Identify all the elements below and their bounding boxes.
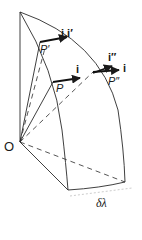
point-p-label: P	[56, 83, 63, 94]
dashed-radius-upper	[20, 48, 45, 142]
delta-lambda-label: δλ	[96, 197, 107, 209]
radius-to-p	[20, 82, 53, 142]
origin-label: O	[4, 140, 14, 153]
edge-origin-to-bottom	[20, 142, 68, 190]
vector-i-i-prime-label: i,i′	[61, 28, 73, 39]
point-p-double-prime-label: P″	[108, 76, 119, 87]
dashed-radius-to-right-bottom	[20, 142, 125, 182]
vector-i-at-p-label: i	[76, 64, 79, 75]
vector-i-double-prime-label: i″	[108, 52, 116, 63]
vector-i-at-p-double-prime-label: i	[123, 63, 126, 74]
point-p-prime-label: P′	[40, 44, 49, 55]
radius-to-p-prime	[20, 42, 40, 142]
equator-arc	[68, 182, 125, 190]
